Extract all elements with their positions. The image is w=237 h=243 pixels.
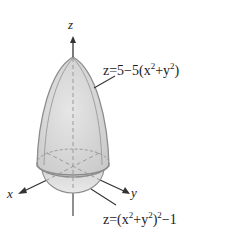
y-axis: [100, 180, 126, 192]
lower-equation-leader: [91, 189, 116, 205]
upper-surface-equation: z=5−5(x2+y2): [103, 64, 179, 78]
equation-part: =5−5(x: [109, 63, 150, 78]
x-axis-arrowhead: [18, 187, 27, 194]
equation-part: =(x: [109, 212, 129, 227]
diagram-canvas: [0, 0, 237, 243]
x-axis-label: x: [7, 187, 13, 200]
equation-part: +y: [133, 212, 148, 227]
equation-part: +y: [155, 63, 170, 78]
equation-part: −1: [162, 212, 177, 227]
y-axis-label: y: [131, 186, 137, 199]
z-axis-label: z: [68, 18, 73, 31]
equation-part: ): [175, 63, 180, 78]
z-axis-arrowhead: [70, 36, 76, 43]
solid-region-diagram: z x y z=5−5(x2+y2) z=(x2+y2)2−1: [0, 0, 237, 243]
lower-surface-equation: z=(x2+y2)2−1: [103, 213, 177, 227]
